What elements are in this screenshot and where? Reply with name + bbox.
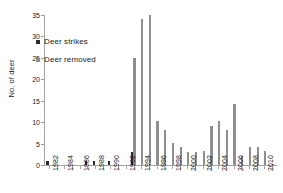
bar-deer-removed <box>203 151 205 165</box>
y-tick-mark <box>41 165 44 166</box>
legend-swatch-icon <box>36 40 40 44</box>
x-tick-mark <box>157 166 158 169</box>
x-tick-label: 2006 <box>237 155 244 171</box>
bar-deer-removed <box>141 19 143 165</box>
x-tick-mark <box>64 166 65 169</box>
y-tick-mark <box>41 36 44 37</box>
x-tick-label: 2010 <box>267 155 274 171</box>
legend-item: Deer strikes <box>36 37 96 46</box>
y-axis-title: No. of deer <box>7 49 16 109</box>
y-tick-label: 0 <box>36 162 40 169</box>
x-tick-label: 1994 <box>144 155 151 171</box>
x-tick-mark <box>264 166 265 169</box>
bar-deer-removed <box>249 147 251 165</box>
bar-deer-removed <box>133 58 135 165</box>
y-tick-label: 10 <box>32 119 40 126</box>
x-tick-mark <box>218 166 219 169</box>
x-tick-label: 2008 <box>252 155 259 171</box>
bar-deer-removed <box>218 121 220 165</box>
y-tick-mark <box>41 101 44 102</box>
bar-deer-removed <box>149 15 151 165</box>
x-tick-label: 2000 <box>190 155 197 171</box>
y-tick-mark <box>41 58 44 59</box>
y-tick-label: 35 <box>32 12 40 19</box>
bar-deer-removed <box>172 143 174 165</box>
y-tick-label: 20 <box>32 76 40 83</box>
legend-label: Deer removed <box>44 55 96 64</box>
y-tick-label: 5 <box>36 140 40 147</box>
chart-legend: Deer strikesDeer removed <box>36 37 96 73</box>
legend-item: Deer removed <box>36 55 96 64</box>
x-tick-mark <box>49 166 50 169</box>
x-tick-label: 1984 <box>67 155 74 171</box>
x-tick-label: 2002 <box>206 155 213 171</box>
y-tick-label: 15 <box>32 97 40 104</box>
x-tick-mark <box>141 166 142 169</box>
x-tick-label: 1992 <box>129 155 136 171</box>
x-tick-mark <box>249 166 250 169</box>
x-tick-label: 1998 <box>175 155 182 171</box>
x-tick-label: 1990 <box>113 155 120 171</box>
bar-deer-removed <box>233 104 235 165</box>
legend-swatch-icon <box>36 58 40 62</box>
x-tick-label: 2004 <box>221 155 228 171</box>
x-tick-label: 1996 <box>160 155 167 171</box>
x-tick-label: 1986 <box>83 155 90 171</box>
legend-label: Deer strikes <box>44 37 88 46</box>
x-tick-mark <box>203 166 204 169</box>
y-axis-tick-labels: 05101520253035 <box>22 0 40 193</box>
x-tick-mark <box>187 166 188 169</box>
x-tick-mark <box>234 166 235 169</box>
y-tick-mark <box>41 144 44 145</box>
x-tick-mark <box>172 166 173 169</box>
x-tick-mark <box>95 166 96 169</box>
x-tick-mark <box>80 166 81 169</box>
x-tick-mark <box>126 166 127 169</box>
y-tick-mark <box>41 15 44 16</box>
bar-deer-removed <box>156 121 158 165</box>
deer-chart: No. of deer 05101520253035 1982198419861… <box>0 0 283 193</box>
x-tick-label: 1988 <box>98 155 105 171</box>
y-tick-mark <box>41 122 44 123</box>
x-tick-label: 1982 <box>52 155 59 171</box>
x-tick-mark <box>110 166 111 169</box>
y-tick-mark <box>41 79 44 80</box>
